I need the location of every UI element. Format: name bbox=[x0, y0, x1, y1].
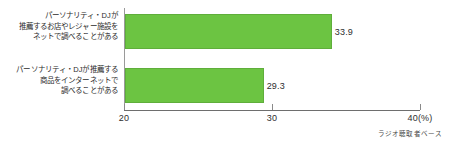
bar-chart: パーソナリティ・DJが 推薦するお店やレジャー施設を ネットで調べることがある … bbox=[0, 0, 450, 142]
bar-2-value-label: 29.3 bbox=[267, 81, 285, 91]
base-note: ラジオ聴取者ベース bbox=[378, 128, 442, 138]
category-label-2: パーソナリティ・DJが推薦する 商品をインターネットで 調べることがある bbox=[16, 65, 118, 97]
bar-2 bbox=[125, 68, 264, 103]
category-label-1: パーソナリティ・DJが 推薦するお店やレジャー施設を ネットで調べることがある bbox=[19, 11, 118, 43]
category-label-1-line-2: 推薦するお店やレジャー施設を bbox=[19, 22, 118, 33]
category-label-1-line-1: パーソナリティ・DJが bbox=[19, 11, 118, 22]
x-axis-line bbox=[124, 110, 420, 111]
x-tick-30 bbox=[272, 104, 273, 110]
x-tick-40 bbox=[420, 104, 421, 110]
x-tick-label-40: 40(%) bbox=[407, 113, 432, 123]
bar-1 bbox=[125, 14, 332, 49]
x-tick-label-20: 20 bbox=[119, 113, 129, 123]
category-label-2-line-2: 商品をインターネットで bbox=[16, 76, 118, 87]
category-label-2-line-1: パーソナリティ・DJが推薦する bbox=[16, 65, 118, 76]
bar-1-value-label: 33.9 bbox=[335, 27, 353, 37]
category-label-1-line-3: ネットで調べることがある bbox=[19, 32, 118, 43]
category-label-2-line-3: 調べることがある bbox=[16, 86, 118, 97]
x-tick-20 bbox=[124, 104, 125, 110]
x-tick-label-30: 30 bbox=[267, 113, 277, 123]
